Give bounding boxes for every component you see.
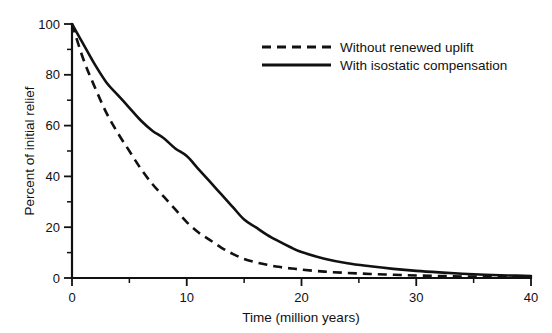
- y-tick-label: 80: [46, 67, 60, 82]
- chart-figure: 020406080100 010203040 Time (million yea…: [0, 0, 552, 333]
- y-axis-title: Percent of initial relief: [22, 86, 37, 215]
- legend-label-0: Without renewed uplift: [340, 40, 474, 55]
- x-axis-ticks: [72, 278, 531, 286]
- x-tick-label: 40: [524, 290, 538, 305]
- y-tick-label: 0: [53, 271, 60, 286]
- y-axis-ticks: [64, 24, 72, 278]
- y-tick-label: 40: [46, 169, 60, 184]
- legend-label-1: With isostatic compensation: [340, 58, 507, 73]
- x-tick-label: 10: [180, 290, 194, 305]
- x-axis-title: Time (million years): [242, 310, 359, 325]
- y-tick-label: 100: [38, 17, 60, 32]
- x-tick-label: 20: [294, 290, 308, 305]
- y-axis-tick-labels: 020406080100: [38, 17, 60, 286]
- x-axis-tick-labels: 010203040: [68, 290, 538, 305]
- x-tick-label: 0: [68, 290, 75, 305]
- x-tick-label: 30: [409, 290, 423, 305]
- chart-legend: Without renewed uplift With isostatic co…: [262, 40, 507, 73]
- y-tick-label: 20: [46, 220, 60, 235]
- chart-plot-area: 020406080100 010203040 Time (million yea…: [0, 0, 552, 333]
- y-tick-label: 60: [46, 118, 60, 133]
